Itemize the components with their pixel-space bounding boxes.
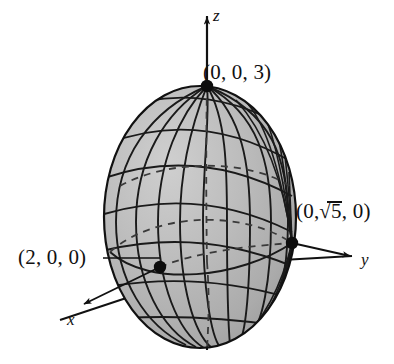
y-intercept-radicand: 5 xyxy=(331,199,342,223)
ellipsoid-figure xyxy=(0,0,394,364)
y-axis-arrow xyxy=(292,243,350,256)
y-axis-label: y xyxy=(361,250,369,270)
square-root-icon: √5 xyxy=(319,198,341,224)
dot-y-intercept xyxy=(286,237,298,249)
x-intercept-label: (2, 0, 0) xyxy=(18,245,86,270)
radical-bar xyxy=(327,201,341,203)
y-intercept-label-suffix: , 0) xyxy=(342,199,371,223)
z-intercept-label: (0, 0, 3) xyxy=(203,60,271,85)
y-intercept-label: (0,√5, 0) xyxy=(296,198,371,224)
x-axis-label: x xyxy=(67,310,75,330)
z-axis-label: z xyxy=(213,6,220,26)
y-intercept-label-prefix: (0, xyxy=(296,199,319,223)
dot-x-intercept xyxy=(154,261,166,273)
